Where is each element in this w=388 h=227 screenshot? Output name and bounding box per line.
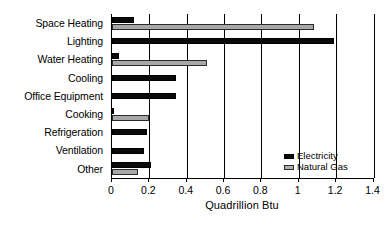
x-axis-title: Quadrillion Btu [111,199,373,211]
bar-natural-gas [112,24,314,30]
x-tick-label-1.4: 1.4 [365,184,380,196]
legend-item-electricity: Electricity [284,151,348,161]
y-axis-label-space-heating: Space Heating [0,14,107,32]
bar-chart: Space Heating Lighting Water Heating Coo… [0,0,388,227]
bar-row [112,87,374,105]
x-axis-ticks [111,178,373,183]
bar-electricity [112,17,134,23]
y-axis-label-cooling: Cooling [0,69,107,87]
x-tick-1.4 [373,178,374,182]
bar-row [112,50,374,68]
y-axis-label-other: Other [0,160,107,178]
bar-row [112,14,374,32]
legend-item-natural-gas: Natural Gas [284,162,348,172]
x-tick-1.2 [335,178,336,182]
bar-row [112,69,374,87]
y-axis-label-refrigeration: Refrigeration [0,123,107,141]
y-axis-label-lighting: Lighting [0,32,107,50]
bar-electricity [112,148,144,154]
x-tick-label-1.2: 1.2 [328,184,343,196]
x-tick-label-1: 1 [295,184,301,196]
bar-electricity [112,93,176,99]
bar-electricity [112,129,147,135]
bar-row [112,32,374,50]
legend-label-electricity: Electricity [297,151,338,161]
x-tick-label-0.4: 0.4 [178,184,193,196]
x-tick-0.8 [260,178,261,182]
bar-natural-gas [112,60,207,66]
y-axis-label-ventilation: Ventilation [0,142,107,160]
bar-electricity [112,162,151,168]
y-axis-label-office-equipment: Office Equipment [0,87,107,105]
x-tick-label-0.6: 0.6 [216,184,231,196]
x-axis-tick-labels: 00.20.40.60.811.21.4 [0,184,388,198]
y-axis-label-cooking: Cooking [0,105,107,123]
bar-natural-gas [112,169,138,175]
x-tick-0 [111,178,112,182]
bar-electricity [112,38,334,44]
y-axis-label-water-heating: Water Heating [0,50,107,68]
bar-row [112,105,374,123]
x-tick-0.4 [186,178,187,182]
legend-label-natural-gas: Natural Gas [297,162,348,172]
bar-electricity [112,75,176,81]
gridline-1.4 [374,14,375,178]
x-tick-0.6 [223,178,224,182]
bar-row [112,123,374,141]
y-axis-category-labels: Space Heating Lighting Water Heating Coo… [0,14,107,178]
x-tick-label-0.8: 0.8 [253,184,268,196]
bar-electricity [112,53,119,59]
x-tick-1 [298,178,299,182]
x-tick-label-0.2: 0.2 [141,184,156,196]
electricity-swatch-icon [284,154,294,159]
natural-gas-swatch-icon [284,165,294,170]
x-tick-0.2 [148,178,149,182]
chart-legend: Electricity Natural Gas [284,151,348,172]
bar-natural-gas [112,115,149,121]
x-tick-label-0: 0 [108,184,114,196]
bar-electricity [112,108,114,114]
